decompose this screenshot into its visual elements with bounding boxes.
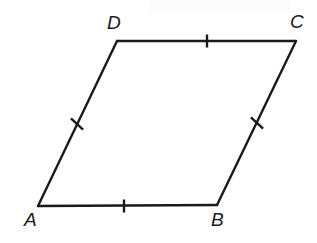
vertex-label-d: D [107,13,121,32]
vertex-label-c: C [290,12,304,31]
parallelogram-svg [0,0,317,243]
congruence-tick-marks [71,35,263,213]
tick-mark-side-BC [251,117,263,128]
vertex-label-a: A [24,210,37,229]
side-AB [38,205,217,206]
geometry-figure: A B C D [0,0,317,243]
vertex-label-b: B [211,210,224,229]
tick-mark-side-AD [71,118,83,129]
